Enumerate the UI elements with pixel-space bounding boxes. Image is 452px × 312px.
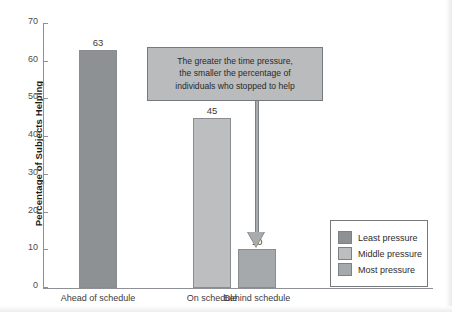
annotation-arrow-stem [255, 101, 259, 236]
annotation-line-1: The greater the time pressure, [152, 55, 318, 67]
chart-figure: Percentage of Subjects Helping 0 10 20 3… [0, 0, 452, 312]
annotation-arrow-head [248, 232, 264, 247]
legend-label-least: Least pressure [358, 233, 418, 243]
legend-item-least-pressure: Least pressure [338, 231, 421, 244]
bar-value-1: 45 [207, 105, 218, 116]
legend-swatch-icon-middle [338, 247, 352, 260]
legend-swatch-icon-most [338, 263, 352, 276]
legend-swatch-icon-least [338, 231, 352, 244]
legend-item-most-pressure: Most pressure [338, 263, 421, 276]
y-tick-0: 0 [43, 287, 48, 288]
annotation-callout-box: The greater the time pressure, the small… [147, 47, 323, 101]
y-tick-60: 60 [43, 61, 48, 62]
legend-label-most: Most pressure [358, 265, 415, 275]
y-tick-10: 10 [43, 249, 48, 250]
y-tick-label-50: 50 [28, 91, 38, 101]
bar-behind-schedule: 10 Behind schedule [238, 249, 276, 288]
y-tick-40: 40 [43, 136, 48, 137]
page-edge-right-shadow [446, 0, 452, 312]
annotation-line-3: individuals who stopped to help [152, 80, 318, 92]
y-tick-30: 30 [43, 174, 48, 175]
legend-label-middle: Middle pressure [358, 249, 422, 259]
y-tick-label-70: 70 [28, 16, 38, 26]
y-axis-title: Percentage of Subjects Helping [33, 54, 44, 254]
bar-ahead-of-schedule: 63 Ahead of schedule [79, 50, 117, 288]
y-tick-20: 20 [43, 212, 48, 213]
chart-legend: Least pressure Middle pressure Most pres… [330, 220, 428, 287]
y-tick-label-40: 40 [28, 129, 38, 139]
x-tick-label-2: Behind schedule [224, 293, 291, 303]
bar-value-0: 63 [93, 37, 104, 48]
y-tick-label-60: 60 [28, 54, 38, 64]
annotation-line-2: the smaller the percentage of [152, 67, 318, 79]
x-tick-label-0: Ahead of schedule [61, 293, 136, 303]
plot-area: 0 10 20 30 40 50 60 70 [43, 24, 433, 289]
y-tick-70: 70 [43, 23, 48, 24]
page-edge-bottom-shadow [0, 306, 452, 312]
bar-on-schedule: 45 On schedule [193, 118, 231, 288]
y-tick-label-10: 10 [28, 242, 38, 252]
y-tick-label-30: 30 [28, 167, 38, 177]
x-axis-line [43, 288, 433, 289]
legend-item-middle-pressure: Middle pressure [338, 247, 421, 260]
y-tick-label-0: 0 [33, 280, 38, 290]
y-tick-label-20: 20 [28, 205, 38, 215]
y-tick-50: 50 [43, 98, 48, 99]
